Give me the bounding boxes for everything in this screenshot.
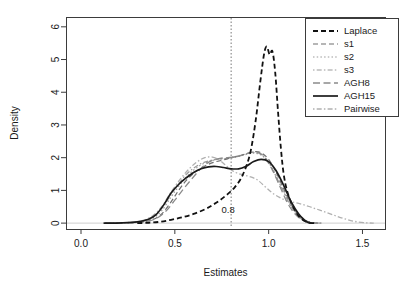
- reference-value-label: 0.8: [222, 204, 235, 215]
- series-curve-s1: [105, 152, 321, 223]
- y-tick-label-3: 3: [50, 122, 61, 128]
- y-tick-label-4: 4: [50, 89, 61, 95]
- y-tick-label-2: 2: [50, 154, 61, 160]
- legend-label-laplace: Laplace: [344, 25, 377, 36]
- legend-label-s3: s3: [344, 64, 354, 75]
- series-curve-s2: [105, 153, 321, 223]
- chart-canvas: 0.00.51.01.50123456EstimatesDensity0.8La…: [0, 0, 407, 294]
- density-plot-figure: 0.00.51.01.50123456EstimatesDensity0.8La…: [0, 0, 407, 294]
- legend-label-agh15: AGH15: [344, 90, 375, 101]
- legend: Laplaces1s2s3AGH8AGH15Pairwise: [306, 19, 399, 117]
- legend-label-s1: s1: [344, 38, 354, 49]
- y-tick-label-1: 1: [50, 187, 61, 193]
- x-tick-label-1: 0.5: [168, 238, 182, 249]
- y-tick-label-5: 5: [50, 56, 61, 62]
- legend-label-agh8: AGH8: [344, 77, 370, 88]
- y-axis-title: Density: [9, 106, 20, 139]
- x-axis-title: Estimates: [204, 267, 248, 278]
- series-curve-agh15: [104, 159, 312, 223]
- y-tick-label-6: 6: [50, 24, 61, 30]
- series-curve-pairwise: [105, 157, 373, 223]
- x-tick-label-0: 0.0: [74, 238, 88, 249]
- y-tick-label-0: 0: [50, 220, 61, 226]
- legend-label-s2: s2: [344, 51, 354, 62]
- x-tick-label-2: 1.0: [262, 238, 276, 249]
- legend-label-pairwise: Pairwise: [344, 103, 380, 114]
- x-tick-label-3: 1.5: [356, 238, 370, 249]
